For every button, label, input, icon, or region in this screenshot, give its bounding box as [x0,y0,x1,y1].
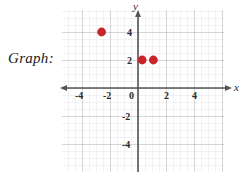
x-tick-label--2: -2 [103,90,111,101]
y-tick-label--4: -4 [122,139,130,150]
data-point [138,56,147,65]
y-axis-label: y [133,0,138,12]
x-tick-label-2: 2 [164,90,169,101]
grid-lines [62,10,224,172]
coordinate-plane [0,0,251,182]
data-point [97,28,106,37]
data-point [149,56,158,65]
y-tick-label-2: 2 [127,55,132,66]
x-axis-label: x [234,81,239,93]
origin-label: 0 [129,90,134,101]
y-tick-label--2: -2 [122,111,130,122]
graph-figure: Graph: -4 -2 0 2 4 4 2 -2 -4 [0,0,251,182]
x-tick-label--4: -4 [75,90,83,101]
y-tick-label-4: 4 [127,27,132,38]
x-tick-label-4: 4 [192,90,197,101]
